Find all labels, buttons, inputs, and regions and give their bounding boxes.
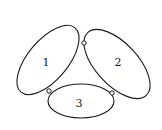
three-body-hinge-diagram: 1 2 3 [0,0,162,130]
body-3: 3 [48,84,114,118]
hinge-2-3-icon [110,91,114,95]
hinge-1-3-icon [47,89,51,93]
hinge-1-2-icon [82,41,86,45]
body-label-1: 1 [43,56,50,69]
body-2: 2 [72,18,161,110]
body-label-3: 3 [76,97,83,110]
body-label-2: 2 [115,56,122,69]
